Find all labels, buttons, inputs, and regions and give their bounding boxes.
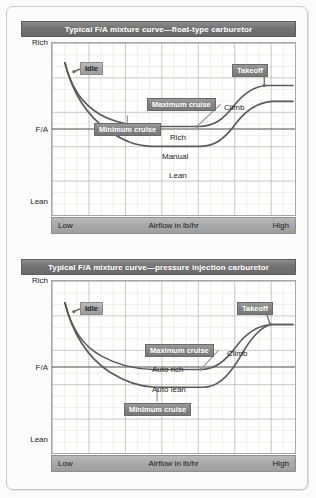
chart-title-bar-pressure-injection: Typical F/A mixture curve—pressure injec… <box>21 259 296 275</box>
chart-title-bar-float-type: Typical F/A mixture curve—float-type car… <box>21 21 296 37</box>
curve-label-lean-top: Lean <box>169 171 187 180</box>
chart-pressure-injection: Typical F/A mixture curve—pressure injec… <box>8 250 296 482</box>
callout-takeoff-top[interactable]: Takeoff <box>232 64 268 77</box>
chart-title-pressure-injection: Typical F/A mixture curve—pressure injec… <box>48 263 269 272</box>
x-axis-bar-pressure-injection: Low Airflow in lb/hr High <box>51 455 296 472</box>
curve-label-auto-lean-bottom: Auto lean <box>152 385 186 394</box>
callout-takeoff-bottom[interactable]: Takeoff <box>237 302 273 315</box>
y-axis-label-rich-bottom: Rich <box>18 276 48 285</box>
curve-label-climb-top: Climb <box>224 103 244 112</box>
y-axis-label-lean-bottom: Lean <box>18 435 48 444</box>
x-axis-bar-float-type: Low Airflow in lb/hr High <box>51 217 296 234</box>
plot-area-float-type: Idle Takeoff Maximum cruise Minimum crui… <box>51 42 296 216</box>
y-axis-label-fa-bottom: F/A <box>18 363 48 372</box>
takeoff-dot <box>268 323 272 327</box>
x-axis-high-bottom: High <box>273 459 289 468</box>
y-axis-label-lean-top: Lean <box>18 197 48 206</box>
callout-minimum-cruise-top[interactable]: Minimum cruise <box>94 123 161 136</box>
curve-label-rich-top: Rich <box>170 133 186 142</box>
callout-idle-bottom[interactable]: Idle <box>80 302 103 315</box>
x-axis-title-top: Airflow in lb/hr <box>52 221 295 230</box>
maximum-cruise-dot <box>199 368 202 371</box>
curve-label-auto-rich-bottom: Auto rich <box>152 365 184 374</box>
curve-label-climb-bottom: Climb <box>227 349 247 358</box>
y-axis-label-fa-top: F/A <box>18 125 48 134</box>
idle-leader-dot <box>72 70 75 73</box>
callout-minimum-cruise-bottom[interactable]: Minimum cruise <box>124 403 191 416</box>
callout-maximum-cruise-bottom[interactable]: Maximum cruise <box>145 344 214 357</box>
curve-label-manual-top: Manual <box>162 152 188 161</box>
maximum-cruise-dot <box>195 125 198 128</box>
figure-page: Typical F/A mixture curve—float-type car… <box>0 0 316 498</box>
x-axis-title-bottom: Airflow in lb/hr <box>52 459 295 468</box>
chart-title-float-type: Typical F/A mixture curve—float-type car… <box>65 25 252 34</box>
plot-area-pressure-injection: Idle Takeoff Maximum cruise Minimum crui… <box>51 280 296 454</box>
takeoff-dot <box>262 84 266 88</box>
callout-maximum-cruise-top[interactable]: Maximum cruise <box>147 98 216 111</box>
idle-leader-dot <box>72 310 75 313</box>
x-axis-high-top: High <box>273 221 289 230</box>
chart-float-type: Typical F/A mixture curve—float-type car… <box>8 12 296 244</box>
y-axis-label-rich-top: Rich <box>18 38 48 47</box>
callout-idle-top[interactable]: Idle <box>80 62 103 75</box>
